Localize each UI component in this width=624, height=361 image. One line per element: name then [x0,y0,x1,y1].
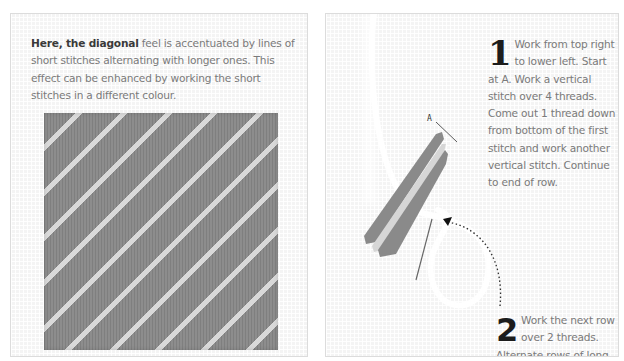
left-panel: Here, the diagonal feel is accentuated b… [10,13,308,357]
step-number: 2 [496,315,518,345]
caption-bold: Here, the diagonal [31,37,139,49]
step-1: 1 Work from top right to lower left. Sta… [488,36,616,192]
long-stitch-row [364,132,448,257]
step-number: 1 [488,38,511,68]
step-2: 2 Work the next row over 2 threads. Alte… [496,312,618,357]
caption: Here, the diagonal feel is accentuated b… [31,35,301,104]
right-panel: A 1 Work from top right to lower left. S… [325,13,619,357]
point-a-label: A [427,114,432,123]
stitch-sample-image [44,113,278,350]
